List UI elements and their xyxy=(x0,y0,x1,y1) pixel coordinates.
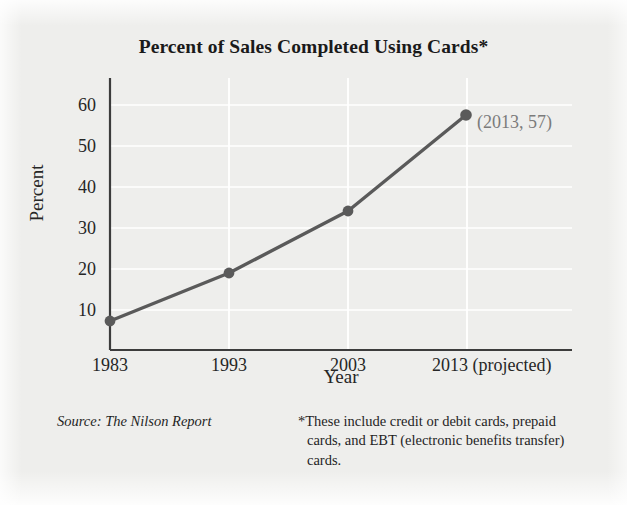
line-chart-svg xyxy=(0,0,627,505)
y-tick-label-30: 30 xyxy=(56,218,96,239)
data-point-2003 xyxy=(343,206,354,217)
data-point-markers xyxy=(105,109,472,326)
x-axis-label: Year xyxy=(110,366,572,388)
y-tick-label-60: 60 xyxy=(56,95,96,116)
chart-figure: Percent of Sales Completed Using Cards* xyxy=(0,0,627,505)
y-axis-label: Percent xyxy=(26,133,48,253)
y-tick-label-40: 40 xyxy=(56,177,96,198)
plot-area: 60 50 40 30 20 10 1983 1993 2003 2013 (p… xyxy=(0,0,627,505)
data-point-2013 xyxy=(460,109,472,121)
data-point-1983 xyxy=(105,316,116,327)
y-tick-label-50: 50 xyxy=(56,136,96,157)
y-tick-label-20: 20 xyxy=(56,259,96,280)
chart-title: Percent of Sales Completed Using Cards* xyxy=(0,36,627,58)
y-tick-label-10: 10 xyxy=(56,300,96,321)
data-point-annotation: (2013, 57) xyxy=(477,112,552,133)
horizontal-gridlines xyxy=(110,105,572,310)
data-point-1993 xyxy=(224,268,235,279)
